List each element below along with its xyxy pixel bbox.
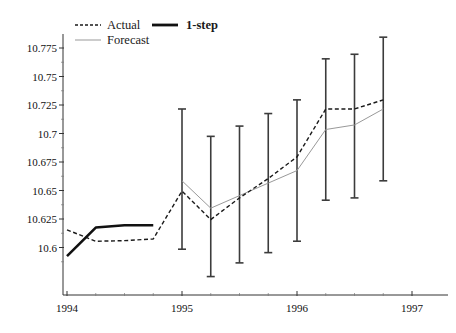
y-tick-label: 10.775 bbox=[27, 42, 58, 54]
error-bar bbox=[178, 109, 186, 249]
legend-label: Actual bbox=[107, 18, 141, 32]
series-1-step bbox=[67, 225, 153, 256]
y-tick-label: 10.65 bbox=[32, 185, 57, 197]
y-tick-label: 10.6 bbox=[38, 242, 58, 254]
y-tick-label: 10.7 bbox=[38, 128, 58, 140]
ytick-labels-group: 10.610.62510.6510.67510.710.72510.7510.7… bbox=[27, 42, 58, 254]
legend-item: Actual bbox=[75, 18, 141, 32]
x-tick-label: 1995 bbox=[171, 302, 194, 314]
x-tick-label: 1996 bbox=[286, 302, 309, 314]
legend-label: Forecast bbox=[107, 33, 150, 47]
series-forecast bbox=[182, 109, 383, 208]
error-bar bbox=[351, 54, 359, 198]
legend-item: Forecast bbox=[75, 33, 150, 47]
series-actual bbox=[67, 100, 383, 241]
series-line-1-step bbox=[67, 225, 153, 256]
error-bars-group bbox=[178, 37, 387, 276]
y-tick-label: 10.725 bbox=[27, 99, 58, 111]
forecast-line-chart: 10.610.62510.6510.67510.710.72510.7510.7… bbox=[0, 0, 456, 333]
series-line-forecast bbox=[182, 109, 383, 208]
legend: Actual1-stepForecast bbox=[75, 18, 218, 47]
y-tick-label: 10.675 bbox=[27, 156, 58, 168]
series-line-actual bbox=[67, 100, 383, 241]
chart-container: 10.610.62510.6510.67510.710.72510.7510.7… bbox=[0, 0, 456, 333]
y-tick-label: 10.75 bbox=[32, 71, 57, 83]
x-tick-label: 1997 bbox=[401, 302, 424, 314]
y-tick-label: 10.625 bbox=[27, 213, 58, 225]
legend-label: 1-step bbox=[186, 18, 218, 32]
axes-group bbox=[59, 34, 448, 296]
x-tick-label: 1994 bbox=[56, 302, 79, 314]
xtick-labels-group: 1994199519961997 bbox=[56, 302, 424, 314]
legend-item: 1-step bbox=[152, 18, 218, 32]
